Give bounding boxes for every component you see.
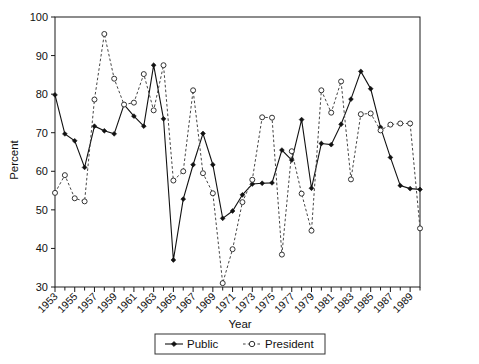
data-point-president — [408, 121, 413, 126]
legend-marker-president — [249, 341, 254, 346]
data-point-public — [112, 131, 117, 136]
plot-frame — [55, 17, 420, 287]
x-tick-label: 1953 — [35, 290, 60, 315]
data-point-president — [309, 228, 314, 233]
series-line-president — [55, 34, 420, 283]
data-point-public — [418, 187, 423, 192]
data-point-president — [82, 199, 87, 204]
data-point-president — [191, 88, 196, 93]
data-point-president — [289, 149, 294, 154]
y-tick-label: 100 — [30, 11, 48, 23]
legend-label-president: President — [265, 338, 314, 350]
data-point-president — [220, 281, 225, 286]
data-point-president — [260, 115, 265, 120]
data-point-president — [171, 178, 176, 183]
x-tick-label: 1983 — [331, 290, 356, 315]
data-point-president — [339, 79, 344, 84]
data-point-president — [378, 128, 383, 133]
series-layer — [53, 31, 423, 285]
data-point-public — [319, 141, 324, 146]
x-tick-label: 1973 — [232, 290, 257, 315]
data-point-president — [270, 115, 275, 120]
data-point-public — [181, 197, 186, 202]
data-point-president — [358, 112, 363, 117]
x-axis-ticks: 1953195519571959196119631965196719691971… — [35, 287, 420, 315]
y-axis-ticks: 30405060708090100 — [30, 11, 55, 293]
data-point-president — [72, 196, 77, 201]
data-point-public — [339, 122, 344, 127]
data-point-president — [131, 100, 136, 105]
data-point-public — [191, 162, 196, 167]
data-point-president — [398, 121, 403, 126]
data-point-president — [161, 63, 166, 68]
data-point-public — [270, 180, 275, 185]
data-point-public — [82, 165, 87, 170]
data-point-president — [151, 108, 156, 113]
data-point-president — [279, 252, 284, 257]
x-tick-label: 1971 — [212, 290, 237, 315]
y-axis-title: Percent — [8, 139, 20, 179]
data-point-public — [171, 258, 176, 263]
y-tick-label: 40 — [36, 242, 48, 254]
data-point-president — [200, 171, 205, 176]
x-tick-label: 1985 — [351, 290, 376, 315]
data-point-president — [319, 88, 324, 93]
chart-container: 30405060708090100 1953195519571959196119… — [0, 0, 479, 364]
data-point-president — [299, 191, 304, 196]
data-point-president — [92, 97, 97, 102]
x-tick-label: 1957 — [74, 290, 99, 315]
data-point-public — [92, 124, 97, 129]
data-point-public — [398, 183, 403, 188]
line-chart: 30405060708090100 1953195519571959196119… — [0, 0, 479, 364]
data-point-public — [102, 128, 107, 133]
data-point-president — [53, 190, 58, 195]
y-tick-label: 80 — [36, 88, 48, 100]
y-tick-label: 70 — [36, 127, 48, 139]
y-tick-label: 30 — [36, 281, 48, 293]
x-tick-label: 1979 — [291, 290, 316, 315]
data-point-public — [408, 186, 413, 191]
series-line-public — [55, 65, 420, 260]
data-point-public — [368, 86, 373, 91]
data-point-president — [230, 247, 235, 252]
x-tick-label: 1967 — [173, 290, 198, 315]
data-point-president — [181, 169, 186, 174]
data-point-public — [53, 93, 58, 98]
data-point-president — [418, 226, 423, 231]
data-point-president — [240, 200, 245, 205]
data-point-president — [210, 191, 215, 196]
data-point-president — [141, 72, 146, 77]
data-point-president — [112, 76, 117, 81]
x-tick-label: 1989 — [390, 290, 415, 315]
data-point-public — [349, 97, 354, 102]
x-tick-label: 1955 — [55, 290, 80, 315]
data-point-president — [329, 110, 334, 115]
data-point-public — [358, 69, 363, 74]
x-tick-label: 1977 — [272, 290, 297, 315]
x-tick-label: 1981 — [311, 290, 336, 315]
data-point-president — [388, 122, 393, 127]
data-point-public — [151, 63, 156, 68]
x-tick-label: 1963 — [134, 290, 159, 315]
data-point-public — [329, 142, 334, 147]
data-point-president — [348, 177, 353, 182]
data-point-president — [368, 111, 373, 116]
data-point-public — [201, 131, 206, 136]
data-point-president — [62, 173, 67, 178]
data-point-president — [250, 177, 255, 182]
y-tick-label: 50 — [36, 204, 48, 216]
data-point-president — [102, 31, 107, 36]
y-tick-label: 90 — [36, 50, 48, 62]
x-tick-label: 1975 — [252, 290, 277, 315]
data-point-public — [260, 181, 265, 186]
chart-legend: PublicPresident — [155, 334, 325, 354]
x-tick-label: 1987 — [370, 290, 395, 315]
legend-label-public: Public — [187, 338, 219, 350]
x-tick-label: 1965 — [153, 290, 178, 315]
data-point-public — [161, 116, 166, 121]
y-tick-label: 60 — [36, 165, 48, 177]
x-tick-label: 1969 — [193, 290, 218, 315]
data-point-public — [210, 162, 215, 167]
x-axis-title: Year — [228, 318, 251, 330]
data-point-president — [122, 102, 127, 107]
